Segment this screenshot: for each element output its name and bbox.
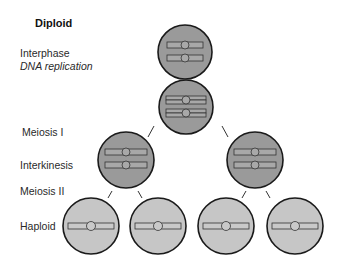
- haploid-cell-1: [63, 198, 119, 254]
- haploid-cell-4: [267, 198, 323, 254]
- connector-line: [222, 126, 228, 137]
- chromosome-icon: [203, 222, 249, 231]
- connector-line: [266, 191, 270, 198]
- interkinesis-cell-right: [227, 132, 283, 188]
- interphase-cell: [158, 25, 212, 79]
- connector-line: [108, 191, 112, 198]
- replicated-cell: [159, 80, 213, 134]
- haploid-cell-3: [198, 198, 254, 254]
- chromosome-icon: [272, 222, 318, 231]
- meiosis-diagram: [0, 0, 342, 275]
- chromosome-icon: [68, 222, 114, 231]
- chromosome-icon: [135, 222, 181, 231]
- haploid-cell-2: [130, 198, 186, 254]
- connector-line: [148, 126, 154, 137]
- connector-line: [242, 191, 246, 198]
- connector-line: [138, 191, 142, 198]
- interkinesis-cell-left: [98, 132, 154, 188]
